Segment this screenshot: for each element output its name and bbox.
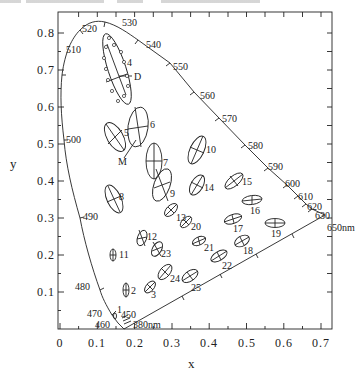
x-tick-labels: 0 0.1 0.2 0.3 0.4 0.5 0.6 0.7: [57, 336, 331, 350]
svg-text:5: 5: [124, 127, 129, 138]
svg-text:0.2: 0.2: [126, 336, 144, 350]
y-axis-label: y: [10, 156, 17, 171]
svg-text:380nm: 380nm: [133, 319, 161, 330]
svg-text:0.6: 0.6: [37, 100, 55, 114]
y-tick-labels: 0.1 0.2 0.3 0.4 0.5 0.6 0.7 0.8: [37, 26, 55, 299]
ellipse-4: [97, 31, 137, 107]
svg-text:8: 8: [119, 191, 124, 202]
svg-text:0.7: 0.7: [312, 336, 330, 350]
svg-text:570: 570: [222, 113, 237, 124]
svg-text:500: 500: [66, 134, 81, 145]
x-axis-label: x: [188, 356, 195, 371]
svg-text:450: 450: [121, 309, 136, 320]
svg-text:14: 14: [204, 182, 214, 193]
svg-text:0.3: 0.3: [163, 336, 181, 350]
svg-text:540: 540: [146, 39, 161, 50]
svg-text:490: 490: [83, 211, 98, 222]
svg-text:510: 510: [66, 44, 81, 55]
svg-text:18: 18: [243, 245, 253, 256]
svg-text:460: 460: [95, 319, 110, 330]
svg-text:11: 11: [119, 249, 129, 260]
svg-text:0.6: 0.6: [275, 336, 293, 350]
svg-text:23: 23: [161, 248, 171, 259]
svg-text:530: 530: [122, 17, 137, 28]
svg-text:0.3: 0.3: [37, 211, 55, 225]
svg-text:6: 6: [150, 119, 155, 130]
svg-text:520: 520: [82, 23, 97, 34]
y-axis-ticks: [58, 33, 332, 311]
svg-text:9: 9: [170, 188, 175, 199]
svg-text:1: 1: [117, 304, 122, 315]
svg-text:12: 12: [147, 231, 157, 242]
svg-text:13: 13: [176, 212, 186, 223]
svg-text:630: 630: [315, 210, 330, 221]
svg-text:24: 24: [170, 273, 180, 284]
svg-text:M: M: [118, 156, 127, 167]
svg-text:590: 590: [268, 161, 283, 172]
svg-text:0.5: 0.5: [238, 336, 256, 350]
svg-text:0: 0: [57, 336, 64, 350]
svg-text:16: 16: [250, 205, 260, 216]
svg-text:10: 10: [206, 144, 216, 155]
svg-text:20: 20: [191, 221, 201, 232]
svg-text:480: 480: [75, 281, 90, 292]
svg-text:0.5: 0.5: [37, 137, 55, 151]
svg-text:580: 580: [248, 140, 263, 151]
svg-text:25: 25: [191, 282, 201, 293]
svg-text:17: 17: [233, 223, 243, 234]
svg-text:22: 22: [222, 260, 232, 271]
wavelength-labels: 380nm 450 460 470 480 490 500 510 520 53…: [66, 17, 355, 330]
svg-text:19: 19: [271, 228, 281, 239]
svg-text:0.4: 0.4: [200, 336, 218, 350]
svg-text:15: 15: [242, 176, 252, 187]
svg-text:0.7: 0.7: [37, 63, 55, 77]
svg-text:3: 3: [151, 289, 156, 300]
svg-text:21: 21: [204, 242, 214, 253]
label-4: 4: [127, 57, 132, 68]
label-D: D: [134, 71, 141, 82]
svg-text:650nm: 650nm: [327, 222, 355, 233]
svg-text:0.4: 0.4: [37, 174, 55, 188]
svg-text:0.8: 0.8: [37, 26, 55, 40]
svg-text:550: 550: [173, 61, 188, 72]
svg-text:0.1: 0.1: [88, 336, 106, 350]
svg-text:560: 560: [200, 90, 215, 101]
svg-text:2: 2: [131, 285, 136, 296]
svg-text:0.1: 0.1: [37, 285, 55, 299]
cie-chromaticity-diagram: 0 0.1 0.2 0.3 0.4 0.5 0.6 0.7 0.1 0.2 0.…: [0, 0, 363, 376]
svg-text:7: 7: [163, 157, 168, 168]
svg-text:600: 600: [285, 178, 300, 189]
svg-text:470: 470: [87, 308, 102, 319]
svg-text:0.2: 0.2: [37, 248, 55, 262]
